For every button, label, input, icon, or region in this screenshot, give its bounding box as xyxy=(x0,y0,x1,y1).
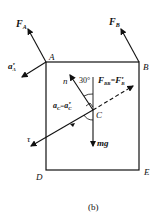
label-angle-30: 30° xyxy=(79,76,90,85)
label-point-a: A xyxy=(48,52,55,62)
label-fa: FA xyxy=(15,18,27,30)
tau-axis-line xyxy=(31,110,93,146)
label-point-b: B xyxy=(143,62,149,72)
figure-caption: (b) xyxy=(88,202,99,212)
force-fa-arrow xyxy=(28,29,46,62)
label-tau: τ xyxy=(27,134,31,144)
label-point-c: C xyxy=(96,110,103,120)
label-mg: mg xyxy=(97,138,109,148)
force-fb-arrow xyxy=(121,29,139,62)
rigid-body-diagram: FA FB A B aAτ n 30° FBR=FBτ aC=aCτ C mg … xyxy=(0,0,159,214)
label-point-d: D xyxy=(35,172,43,182)
label-fbr: FBR=FBτ xyxy=(97,75,125,86)
tau-direction-marker xyxy=(70,123,75,127)
angle-arc-lower xyxy=(84,115,93,120)
angle-arc-30 xyxy=(84,94,93,96)
label-point-e: E xyxy=(143,167,150,177)
label-fb: FB xyxy=(108,16,120,28)
label-n: n xyxy=(63,76,68,86)
accel-aa-arrow xyxy=(22,62,46,77)
label-aa-tau: aAτ xyxy=(8,61,17,72)
force-fbr-arrow xyxy=(93,86,133,110)
label-ac: aC=aCτ xyxy=(53,100,72,111)
